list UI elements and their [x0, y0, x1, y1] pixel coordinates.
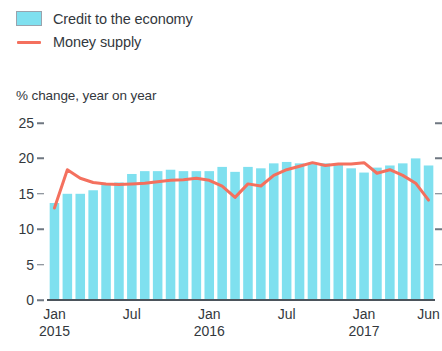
x-tick-label-jul: Jul	[123, 306, 141, 322]
chart-plot-area: 0510152025 Jan2015JulJan2016JulJan2017Ju…	[0, 0, 442, 351]
x-tick-label-jul: Jul	[278, 306, 296, 322]
x-tick-label-jun: Jun	[417, 306, 440, 322]
x-tick-year: 2015	[39, 323, 70, 339]
x-tick-label-jan-2015: Jan2015	[39, 306, 70, 339]
x-tick-year: 2017	[349, 323, 380, 339]
x-tick-month: Jan	[349, 306, 380, 322]
x-tick-month: Jan	[194, 306, 225, 322]
x-tick-month: Jul	[123, 306, 141, 322]
x-axis-labels: Jan2015JulJan2016JulJan2017Jun	[0, 0, 442, 351]
x-tick-month: Jul	[278, 306, 296, 322]
x-tick-label-jan-2016: Jan2016	[194, 306, 225, 339]
x-tick-month: Jan	[39, 306, 70, 322]
x-tick-month: Jun	[417, 306, 440, 322]
x-tick-year: 2016	[194, 323, 225, 339]
x-tick-label-jan-2017: Jan2017	[349, 306, 380, 339]
